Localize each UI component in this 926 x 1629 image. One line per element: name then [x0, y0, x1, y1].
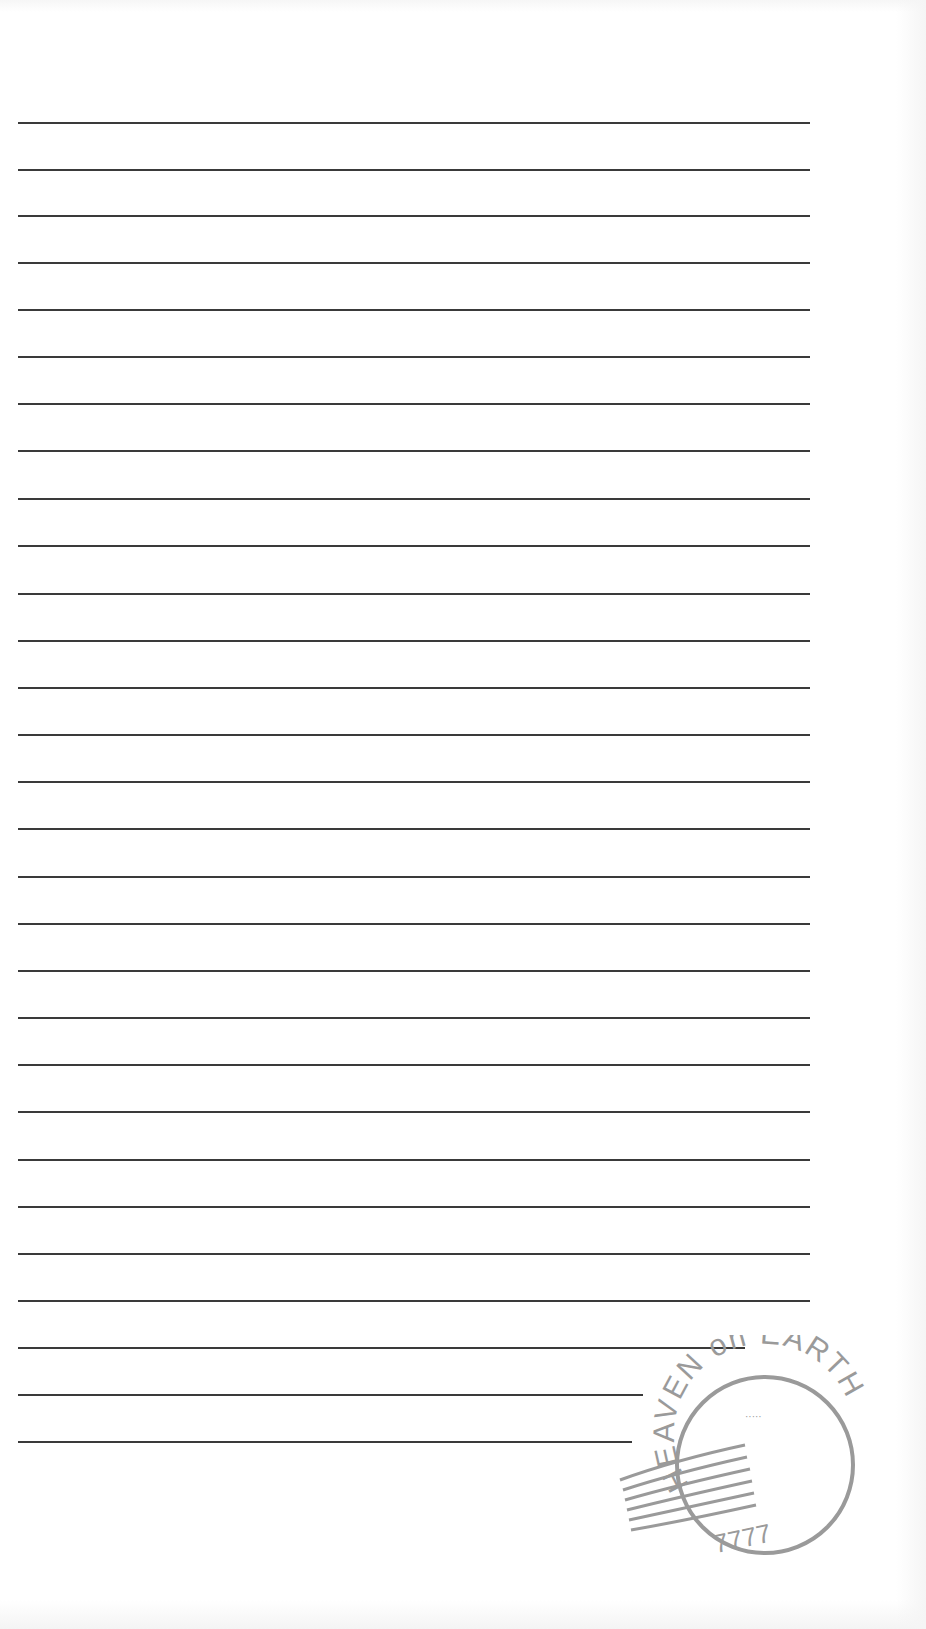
ruled-line [18, 215, 810, 217]
ruled-line [18, 970, 810, 972]
ruled-line [18, 640, 810, 642]
paper-edge-shadow [896, 0, 926, 1629]
ruled-line [18, 1300, 810, 1302]
ruled-line [18, 1206, 810, 1208]
ruled-line [18, 356, 810, 358]
ruled-line [18, 403, 810, 405]
ruled-line [18, 309, 810, 311]
ruled-line [18, 876, 810, 878]
ruled-line [18, 1253, 810, 1255]
postmark-stamp-icon: HEAVEN on EARTH 7777 ····· [615, 1335, 865, 1575]
ruled-line [18, 1111, 810, 1113]
ruled-line [18, 498, 810, 500]
ruled-line [18, 450, 810, 452]
ruled-line [18, 545, 810, 547]
ruled-line [18, 687, 810, 689]
ruled-line [18, 262, 810, 264]
ruled-line [18, 122, 810, 124]
ruled-line [18, 1441, 632, 1443]
ruled-line [18, 781, 810, 783]
ruled-line [18, 734, 810, 736]
ruled-line [18, 1159, 810, 1161]
stamp-center-text: ····· [745, 1411, 762, 1422]
ruled-line [18, 1064, 810, 1066]
ruled-line [18, 593, 810, 595]
ruled-line [18, 923, 810, 925]
ruled-line [18, 1017, 810, 1019]
ruled-line [18, 828, 810, 830]
ruled-line [18, 1394, 643, 1396]
ruled-line [18, 169, 810, 171]
lined-paper: HEAVEN on EARTH 7777 ····· [0, 0, 926, 1629]
cancellation-lines [620, 1445, 756, 1530]
